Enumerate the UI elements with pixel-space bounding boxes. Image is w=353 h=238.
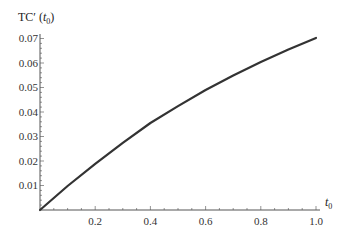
x-tick-label: 0.2 <box>88 215 102 227</box>
series-line <box>40 38 316 210</box>
x-tick-label: 0.8 <box>254 215 268 227</box>
y-tick-label: 0.03 <box>19 130 39 142</box>
y-tick-label: 0.07 <box>19 32 39 44</box>
y-tick-label: 0.05 <box>19 81 39 93</box>
x-tick-label: 0.6 <box>199 215 213 227</box>
x-tick-label: 0.4 <box>144 215 158 227</box>
x-axis-label: t0 <box>325 195 332 211</box>
y-tick-label: 0.04 <box>19 106 39 118</box>
x-axis-ticks: 0.20.40.60.81.0 <box>54 206 324 227</box>
y-tick-label: 0.06 <box>19 57 39 69</box>
x-tick-label: 1.0 <box>309 215 323 227</box>
line-chart: 0.010.020.030.040.050.060.07 0.20.40.60.… <box>0 0 353 238</box>
y-tick-label: 0.01 <box>19 179 38 191</box>
y-axis-label: TC′ (t0) <box>18 10 54 26</box>
y-tick-label: 0.02 <box>19 155 38 167</box>
